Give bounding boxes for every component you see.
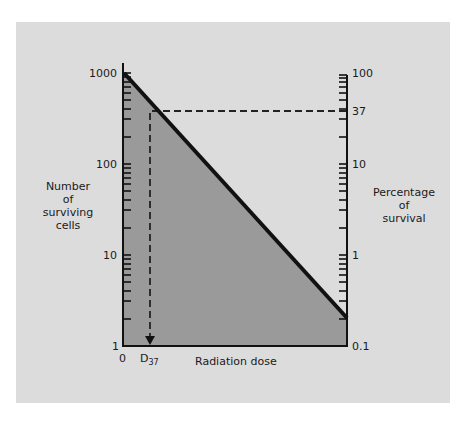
left-tick-1000: 1000 — [89, 67, 117, 80]
right-tick-37: 37 — [352, 105, 366, 118]
y-left-title-line: cells — [38, 219, 98, 232]
right-tick-10: 10 — [352, 158, 366, 171]
y-right-title-line: of — [364, 199, 444, 212]
y-left-title-line: surviving — [38, 206, 98, 219]
y-left-title-line: Number — [38, 180, 98, 193]
y-right-title-line: Percentage — [364, 186, 444, 199]
x-tick-0: 0 — [119, 352, 126, 365]
x-tick-d37: D37 — [140, 352, 159, 369]
y-left-title-line: of — [38, 193, 98, 206]
d37-subscript: 37 — [148, 358, 158, 367]
left-tick-1: 1 — [112, 340, 119, 353]
y-right-axis-title: Percentage of survival — [364, 186, 444, 225]
left-tick-100: 100 — [96, 158, 117, 171]
right-tick-1: 1 — [352, 249, 359, 262]
y-right-title-line: survival — [364, 212, 444, 225]
shaded-area — [123, 73, 347, 346]
y-left-axis-title: Number of surviving cells — [38, 180, 98, 232]
right-tick-100: 100 — [352, 67, 373, 80]
x-axis-title: Radiation dose — [195, 355, 277, 368]
right-tick-0-1: 0.1 — [352, 340, 370, 353]
left-tick-10: 10 — [103, 249, 117, 262]
